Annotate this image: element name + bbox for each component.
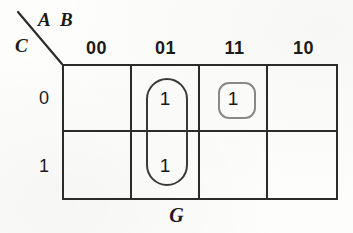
column-header-row: 00 01 11 10 [62, 36, 338, 62]
column-header-11: 11 [200, 36, 269, 62]
kmap-cell-r1-c11 [200, 132, 268, 198]
kmap-cell-r1-c10 [268, 132, 336, 198]
function-label-g: G [0, 203, 353, 227]
column-header-00: 00 [62, 36, 131, 62]
axis-label-c: C [15, 36, 28, 55]
row-header-1: 1 [30, 132, 58, 200]
cell-value: 1 [160, 89, 171, 108]
kmap-cell-r1-c00 [64, 132, 132, 198]
column-header-01: 01 [131, 36, 200, 62]
karnaugh-map-figure: A B C 00 01 11 10 0 1 1 1 1 G [0, 0, 353, 233]
row-header-0: 0 [30, 64, 58, 132]
kmap-cell-r0-c10 [268, 66, 336, 132]
kmap-cell-r0-c01: 1 [132, 66, 200, 132]
column-header-10: 10 [269, 36, 338, 62]
kmap-grid: 1 1 1 [62, 64, 338, 200]
axis-label-a: A [38, 10, 51, 29]
cell-value: 1 [160, 156, 171, 175]
kmap-cell-r1-c01: 1 [132, 132, 200, 198]
kmap-cell-r0-c11: 1 [200, 66, 268, 132]
kmap-cell-r0-c00 [64, 66, 132, 132]
axis-label-b: B [60, 10, 73, 29]
row-header-column: 0 1 [30, 64, 58, 200]
cell-value: 1 [228, 89, 239, 108]
